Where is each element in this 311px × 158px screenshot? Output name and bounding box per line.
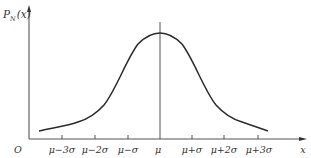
tick-label-mu-plus-3sigma: μ+3σ xyxy=(246,144,273,155)
y-axis-label: PN(x) xyxy=(2,8,31,23)
tick-label-mu-minus-sigma: μ−σ xyxy=(118,144,139,155)
normal-distribution-chart: PN(x) O μ−3σ μ−2σ μ−σ μ μ+σ μ+2σ μ+3σ x xyxy=(0,0,311,158)
origin-label: O xyxy=(14,144,22,155)
tick-label-mu: μ xyxy=(155,144,161,155)
x-axis-arrow-icon xyxy=(299,137,307,141)
tick-label-mu-plus-2sigma: μ+2σ xyxy=(211,144,238,155)
tick-label-mu-plus-sigma: μ+σ xyxy=(182,144,203,155)
tick-label-mu-minus-3sigma: μ−3σ xyxy=(49,144,76,155)
gaussian-curve xyxy=(39,33,268,131)
x-axis-label: x xyxy=(300,144,306,155)
tick-label-mu-minus-2sigma: μ−2σ xyxy=(82,144,109,155)
